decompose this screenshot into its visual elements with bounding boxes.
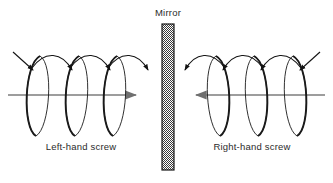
right-coil-loops	[207, 56, 306, 136]
coil-loop-front-limb	[27, 56, 40, 136]
mirror: Mirror	[155, 7, 181, 170]
left-top-arcs	[32, 55, 148, 70]
coil-loop-front-limb	[66, 56, 79, 136]
right-incoming-arrow	[300, 52, 320, 70]
diagram-canvas: Left-hand screw Mirror	[0, 0, 333, 183]
left-hand-screw-helix: Left-hand screw	[8, 52, 148, 152]
mirror-bar	[162, 24, 174, 170]
coil-loop-front-limb	[293, 56, 306, 136]
left-helix-label: Left-hand screw	[46, 141, 117, 152]
left-coil-loops	[27, 56, 126, 136]
coil-loop-front-limb	[254, 56, 267, 136]
circular-polarization-mirror-diagram: Left-hand screw Mirror	[0, 0, 333, 183]
left-incoming-arrow	[13, 52, 33, 70]
mirror-label: Mirror	[155, 7, 181, 18]
coil-loop-front-limb	[104, 56, 117, 136]
right-helix-label: Right-hand screw	[213, 141, 290, 152]
right-hand-screw-helix: Right-hand screw	[185, 52, 325, 152]
right-top-arcs	[185, 55, 301, 70]
coil-loop-front-limb	[216, 56, 229, 136]
